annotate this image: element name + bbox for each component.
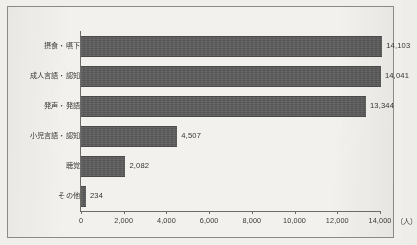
x-tick-mark-6 xyxy=(337,211,338,214)
bar-value-label-2: 13,344 xyxy=(370,96,394,115)
category-label-5: その他 xyxy=(22,192,80,199)
x-tick-mark-3 xyxy=(209,211,210,214)
x-tick-label-3: 6,000 xyxy=(200,216,219,225)
bar-value-label-0: 14,103 xyxy=(386,36,410,55)
bar-1 xyxy=(81,66,381,87)
bar-row: 14,103 xyxy=(81,31,380,61)
x-tick-label-0: 0 xyxy=(79,216,83,225)
category-label-0: 摂食・嚥下 xyxy=(22,42,80,49)
category-label-4: 聴覚 xyxy=(22,162,80,169)
bar-3 xyxy=(81,126,177,147)
x-axis-unit-label: （人） xyxy=(396,216,417,226)
bar-row: 13,344 xyxy=(81,91,380,121)
category-label-3: 小児言語・認知 xyxy=(22,132,80,139)
bar-series: 14,103 14,041 13,344 4,507 2,082 xyxy=(81,31,380,211)
x-axis-line xyxy=(80,211,380,212)
bar-0 xyxy=(81,36,382,57)
x-tick-mark-4 xyxy=(252,211,253,214)
x-tick-label-4: 8,000 xyxy=(242,216,261,225)
x-tick-mark-5 xyxy=(295,211,296,214)
bar-row: 4,507 xyxy=(81,121,380,151)
category-label-2: 発声・発語 xyxy=(22,102,80,109)
bar-row: 2,082 xyxy=(81,151,380,181)
bar-5 xyxy=(81,186,86,207)
x-tick-mark-1 xyxy=(124,211,125,214)
bar-value-label-3: 4,507 xyxy=(181,126,201,145)
bar-value-label-1: 14,041 xyxy=(385,66,409,85)
bar-value-label-5: 234 xyxy=(90,186,103,205)
bar-2 xyxy=(81,96,366,117)
x-tick-mark-0 xyxy=(81,211,82,214)
chart-frame: 摂食・嚥下 成人言語・認知 発声・発語 小児言語・認知 聴覚 その他 14,10… xyxy=(7,6,394,238)
bar-chart-plot-area: 摂食・嚥下 成人言語・認知 発声・発語 小児言語・認知 聴覚 その他 14,10… xyxy=(22,21,395,227)
category-axis-labels: 摂食・嚥下 成人言語・認知 発声・発語 小児言語・認知 聴覚 その他 xyxy=(22,21,80,201)
x-tick-label-1: 2,000 xyxy=(114,216,133,225)
category-label-1: 成人言語・認知 xyxy=(22,72,80,79)
x-tick-mark-7 xyxy=(380,211,381,214)
x-tick-label-6: 12,000 xyxy=(326,216,349,225)
x-tick-mark-2 xyxy=(166,211,167,214)
bar-4 xyxy=(81,156,125,177)
bar-value-label-4: 2,082 xyxy=(129,156,149,175)
bar-row: 14,041 xyxy=(81,61,380,91)
x-tick-label-5: 10,000 xyxy=(283,216,306,225)
x-tick-label-7: 14,000 xyxy=(369,216,392,225)
x-tick-label-2: 4,000 xyxy=(157,216,176,225)
bar-row: 234 xyxy=(81,181,380,211)
